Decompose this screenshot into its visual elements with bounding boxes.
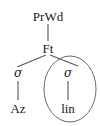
prosodic-tree-figure: PrWd Ft σ σ Az lin xyxy=(0,0,100,126)
node-label-prwd: PrWd xyxy=(32,10,64,23)
node-label-ft: Ft xyxy=(42,42,55,55)
node-label-sigma-left: σ xyxy=(13,67,23,79)
node-label-lin: lin xyxy=(60,102,76,115)
node-label-sigma-right: σ xyxy=(63,67,73,79)
node-label-az: Az xyxy=(9,102,26,115)
